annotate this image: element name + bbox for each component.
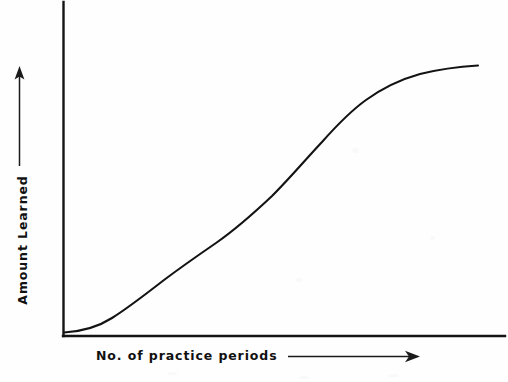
up-arrow-icon bbox=[15, 66, 25, 166]
plot-canvas bbox=[0, 0, 508, 382]
x-axis-label-text: No. of practice periods bbox=[96, 348, 278, 363]
learning-curve-figure: Amount Learned No. of practice periods bbox=[0, 0, 508, 382]
right-arrow-icon bbox=[288, 351, 420, 362]
learning-curve-line bbox=[64, 66, 478, 333]
x-axis-label: No. of practice periods bbox=[96, 344, 278, 366]
y-axis-label-text: Amount Learned bbox=[15, 175, 30, 304]
y-axis-label: Amount Learned bbox=[0, 170, 44, 310]
